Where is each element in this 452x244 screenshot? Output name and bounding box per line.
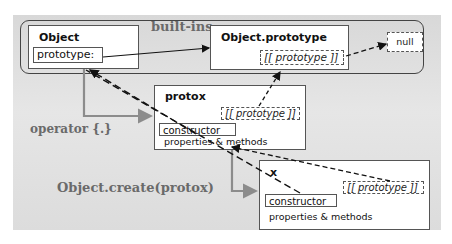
edge-x-constructor	[86, 70, 300, 193]
edge-x-to-protox	[232, 147, 390, 181]
edge-operator-dot	[84, 69, 151, 116]
edge-protox-to-object-prototype	[259, 72, 280, 106]
edges-layer	[0, 0, 452, 244]
edge-object-create	[232, 150, 256, 191]
edge-prototype-to-null	[346, 44, 386, 56]
edge-object-to-prototype	[103, 48, 209, 57]
